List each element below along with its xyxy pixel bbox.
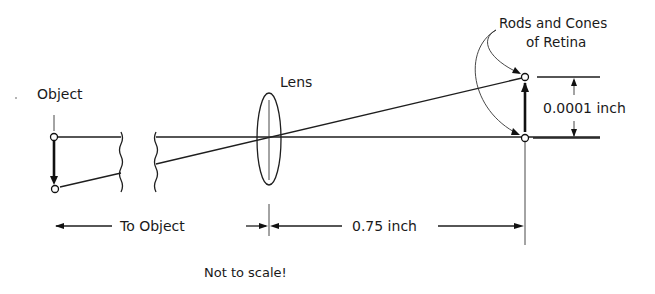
object-point-bottom (52, 186, 59, 193)
leader-to-top-point (488, 30, 519, 73)
break-mark-left (120, 132, 123, 192)
retina-point-bottom (522, 135, 529, 142)
leader-to-bottom-point (475, 30, 518, 134)
image-size-label: 0.0001 inch (543, 100, 626, 116)
object-point-top (51, 134, 58, 141)
focal-dim-arrowhead (514, 223, 524, 229)
lens-label: Lens (280, 74, 312, 90)
ray-chief-left (60, 173, 121, 187)
break-mark-right (155, 132, 158, 192)
leader-bottom-arrowhead (511, 128, 520, 135)
lens-right-arrowhead (270, 223, 279, 229)
retina-label-line2: of Retina (526, 34, 586, 50)
leader-top-arrowhead (512, 67, 521, 74)
eye-optics-diagram: Object Lens Rods and Cones of Retina 0.0… (0, 0, 655, 294)
dim-arrow-up-head (571, 78, 577, 86)
to-object-arrowhead (55, 223, 64, 229)
lens-left-arrowhead (259, 223, 268, 229)
not-to-scale-note: Not to scale! (204, 265, 287, 280)
focal-distance-label: 0.75 inch (352, 218, 417, 234)
retina-label-line1: Rods and Cones (499, 15, 607, 31)
stray-dot (15, 97, 17, 99)
image-arrowhead (521, 82, 529, 92)
retina-point-top (522, 74, 529, 81)
object-arrowhead (50, 176, 58, 185)
to-object-label: To Object (119, 218, 185, 234)
chief-ray (156, 78, 522, 164)
dim-arrow-down-head (571, 129, 577, 137)
object-label: Object (37, 86, 83, 102)
